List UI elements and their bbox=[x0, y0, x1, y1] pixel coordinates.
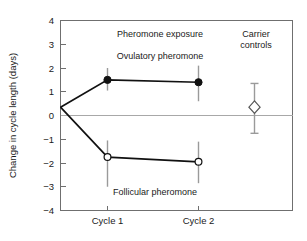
chart-annotations: Pheromone exposure Ovulatory pheromone F… bbox=[113, 29, 272, 197]
y-tick-label-4: 4 bbox=[49, 15, 54, 26]
series-ovulatory-pheromone bbox=[61, 76, 203, 107]
annotation-carrier-controls-line2: controls bbox=[240, 40, 272, 50]
annotation-ovulatory-pheromone: Ovulatory pheromone bbox=[117, 51, 204, 61]
y-axis-title: Change in cycle length (days) bbox=[7, 53, 18, 178]
y-tick-label-minus1: −1 bbox=[43, 134, 54, 145]
y-tick-label-1: 1 bbox=[49, 86, 54, 97]
chart-figure: 4 3 2 1 0 −1 −2 −3 −4 Change in cycle le… bbox=[0, 0, 307, 241]
annotation-pheromone-exposure: Pheromone exposure bbox=[117, 29, 203, 39]
annotation-carrier-controls-line1: Carrier bbox=[242, 29, 270, 39]
y-tick-label-3: 3 bbox=[49, 39, 54, 50]
data-point-carrier-controls bbox=[249, 101, 260, 114]
data-point-follicular-cycle-1 bbox=[104, 154, 111, 161]
data-point-follicular-cycle-2 bbox=[195, 158, 202, 165]
y-tick-label-minus4: −4 bbox=[43, 205, 54, 216]
series-line-ovulatory bbox=[61, 80, 199, 107]
y-axis-tick-labels: 4 3 2 1 0 −1 −2 −3 −4 bbox=[43, 15, 54, 216]
y-tick-label-minus3: −3 bbox=[43, 181, 54, 192]
x-tick-label-cycle-2: Cycle 2 bbox=[183, 215, 215, 226]
x-axis-ticks bbox=[108, 206, 199, 211]
chart-svg: 4 3 2 1 0 −1 −2 −3 −4 Change in cycle le… bbox=[0, 0, 307, 241]
y-tick-label-2: 2 bbox=[49, 63, 54, 74]
x-tick-label-cycle-1: Cycle 1 bbox=[92, 215, 124, 226]
x-axis-tick-labels: Cycle 1 Cycle 2 bbox=[92, 215, 215, 226]
data-point-ovulatory-cycle-1 bbox=[104, 76, 111, 83]
error-bars bbox=[108, 66, 259, 187]
y-tick-label-minus2: −2 bbox=[43, 158, 54, 169]
y-tick-label-0: 0 bbox=[49, 110, 54, 121]
annotation-follicular-pheromone: Follicular pheromone bbox=[113, 187, 197, 197]
series-carrier-controls bbox=[249, 101, 260, 114]
data-point-ovulatory-cycle-2 bbox=[195, 79, 202, 86]
